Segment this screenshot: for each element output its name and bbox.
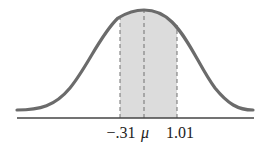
tick-label-mean: μ — [141, 124, 149, 142]
shaded-area — [120, 11, 177, 118]
normal-curve-diagram: −.31 μ 1.01 — [0, 0, 268, 152]
tick-label-right: 1.01 — [166, 124, 194, 142]
tick-label-left: −.31 — [106, 124, 135, 142]
